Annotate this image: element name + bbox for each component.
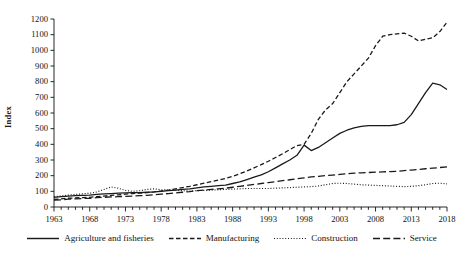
legend-item-agriculture-and-fisheries[interactable]: Agriculture and fisheries (26, 233, 153, 243)
series-line-agriculture-and-fisheries (54, 83, 447, 197)
figure: Index Agriculture and fisheriesManufactu… (0, 0, 463, 260)
y-axis-tick-label: 500 (8, 123, 48, 133)
x-axis-tick-label: 1968 (72, 214, 108, 224)
chart-legend: Agriculture and fisheriesManufacturingCo… (0, 229, 463, 247)
x-axis-tick-label: 1983 (179, 214, 215, 224)
y-axis-tick-label: 200 (8, 170, 48, 180)
y-axis-tick-label: 1100 (8, 29, 48, 39)
x-axis-tick-label: 1963 (36, 214, 72, 224)
legend-item-service[interactable]: Service (372, 233, 437, 243)
y-axis-tick-label: 0 (8, 202, 48, 212)
legend-item-manufacturing[interactable]: Manufacturing (168, 233, 259, 243)
y-axis-tick-label: 100 (8, 186, 48, 196)
x-axis-tick-label: 1973 (107, 214, 143, 224)
legend-item-construction[interactable]: Construction (273, 233, 358, 243)
y-axis-tick-label: 300 (8, 155, 48, 165)
y-axis-tick-label: 600 (8, 108, 48, 118)
legend-swatch-service (372, 234, 406, 243)
x-axis-tick-label: 2018 (429, 214, 463, 224)
legend-label-service: Service (410, 233, 437, 243)
y-axis-tick-label: 1200 (8, 14, 48, 24)
legend-label-agriculture-and-fisheries: Agriculture and fisheries (64, 233, 153, 243)
legend-swatch-agriculture-and-fisheries (26, 234, 60, 243)
x-axis-tick-label: 2013 (393, 214, 429, 224)
y-axis-tick-label: 1000 (8, 45, 48, 55)
y-axis-tick-label: 800 (8, 76, 48, 86)
legend-label-manufacturing: Manufacturing (206, 233, 259, 243)
x-axis-tick-label: 1998 (286, 214, 322, 224)
y-axis-tick-label: 400 (8, 139, 48, 149)
y-axis-tick-label: 900 (8, 61, 48, 71)
x-axis-tick-label: 2008 (358, 214, 394, 224)
legend-label-construction: Construction (311, 233, 358, 243)
legend-swatch-manufacturing (168, 234, 202, 243)
y-axis-tick-label: 700 (8, 92, 48, 102)
legend-swatch-construction (273, 234, 307, 243)
x-axis-tick-label: 1978 (143, 214, 179, 224)
x-axis-tick-label: 1993 (250, 214, 286, 224)
x-axis-tick-label: 1988 (215, 214, 251, 224)
x-axis-tick-label: 2003 (322, 214, 358, 224)
series-line-manufacturing (54, 22, 447, 199)
